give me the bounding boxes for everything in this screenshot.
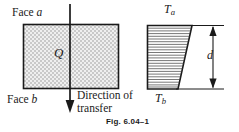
transfer-direction-label: Direction of transfer — [77, 89, 133, 115]
temperature-b-label: Tb — [155, 92, 166, 107]
thickness-label: d — [207, 49, 213, 62]
figure-caption: Fig. 6.04–1 — [106, 117, 149, 126]
face-b-label: Face b — [7, 93, 37, 106]
transfer-direction-line-1: Direction of — [77, 89, 133, 102]
transfer-direction-line-2: transfer — [77, 102, 133, 115]
heat-quantity-label: Q — [54, 46, 63, 61]
slab-block — [24, 25, 119, 89]
face-a-label: Face a — [12, 6, 42, 19]
temperature-profile-shape — [148, 26, 193, 90]
temperature-a-label: Ta — [164, 3, 175, 18]
figure-container: Face a Face b Q Direction of transfer Ta… — [0, 0, 239, 132]
